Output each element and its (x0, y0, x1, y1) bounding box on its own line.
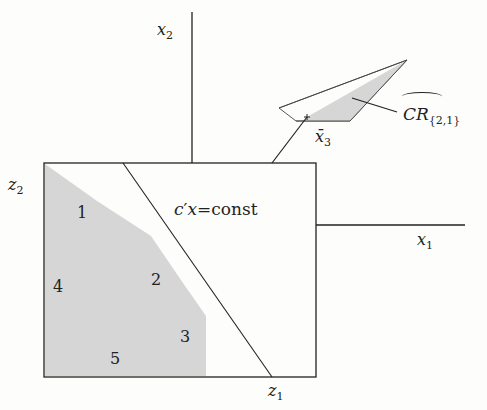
region-2-label: 2 (151, 270, 161, 289)
objective-line-label: c′x=const (174, 199, 258, 219)
region-5-label: 5 (110, 349, 120, 368)
z2-axis-label: z2 (8, 175, 23, 197)
x2-axis-label: x2 (157, 20, 173, 42)
confidence-region-shaded (306, 60, 407, 121)
region-4-label: 4 (53, 277, 63, 296)
z1-axis-label: z1 (268, 381, 283, 403)
cr-label: CR{2,1} (403, 104, 460, 127)
x1-axis-label: x1 (417, 230, 433, 252)
cr-hat (402, 92, 442, 101)
x3-pointer (272, 117, 307, 163)
x3-label: x̄3 (315, 127, 331, 149)
region-3-label: 3 (180, 327, 190, 346)
region-1-label: 1 (77, 203, 87, 222)
